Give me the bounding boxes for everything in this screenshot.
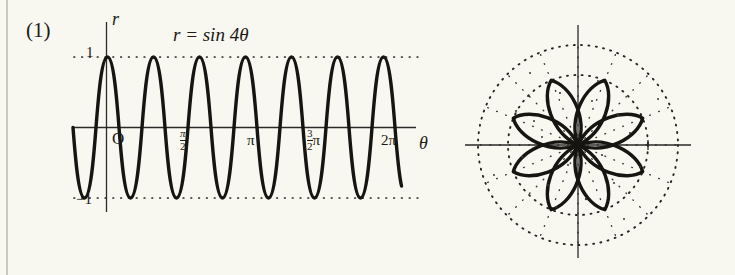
fraction-pi-over-2: π 2 [180, 128, 186, 152]
r-min-tick-label: −1 [76, 192, 92, 207]
polar-plot-panel: y x 1 [440, 0, 735, 275]
cartesian-plot-panel: (1) r = sin 4θ r θ 1 −1 O π 2 π 3 2 π 2π [0, 0, 440, 275]
item-number-label: (1) [26, 20, 51, 41]
polar-plot-svg [440, 0, 735, 275]
figure-container: (1) r = sin 4θ r θ 1 −1 O π 2 π 3 2 π 2π [0, 0, 735, 275]
tick-label-3pi-over-2: 3 2 π [307, 128, 320, 152]
tick-label-2pi: 2π [381, 133, 396, 148]
equation-label: r = sin 4θ [173, 25, 248, 44]
r-axis-label: r [112, 10, 119, 28]
r-max-tick-label: 1 [86, 45, 94, 60]
origin-label: O [112, 130, 124, 147]
tick-label-pi-over-2: π 2 [180, 128, 186, 152]
tick-label-pi: π [247, 133, 255, 148]
tick-3pi-over-2-suffix: π [313, 132, 321, 148]
theta-axis-label: θ [419, 134, 428, 152]
